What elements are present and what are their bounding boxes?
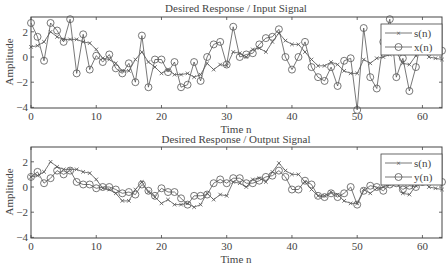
x-tick-label: 60: [417, 110, 429, 122]
legend-box: [381, 24, 442, 55]
x-marker-icon: [42, 170, 46, 174]
legend-label-x: x(n): [414, 41, 433, 54]
legend-marker-x-icon: ×: [396, 29, 401, 38]
series-line-sn: [31, 162, 442, 207]
output-signal-plot: Desired Response / Output Signal 0102030…: [3, 133, 446, 265]
legend-marker-x-icon: ×: [396, 159, 401, 168]
x-marker-icon: [362, 58, 366, 62]
x-marker-icon: [284, 39, 288, 43]
x-tick-label: 0: [28, 240, 34, 252]
x-tick-label: 30: [221, 110, 233, 122]
x-marker-icon: [192, 205, 196, 209]
legend: × s(n) y(n): [381, 154, 442, 185]
axis-ticks: 010203040506020−2−4: [16, 147, 442, 252]
x-marker-icon: [147, 60, 151, 64]
x-marker-icon: [160, 202, 164, 206]
x-tick-label: 60: [417, 240, 429, 252]
x-tick-label: 20: [156, 240, 168, 252]
x-tick-label: 40: [286, 240, 298, 252]
y-tick-label: −2: [16, 76, 28, 88]
y-tick-label: −4: [16, 231, 28, 243]
legend-label-s: s(n): [414, 27, 431, 40]
x-axis-label: Time n: [220, 253, 252, 265]
x-marker-icon: [303, 50, 307, 54]
x-tick-label: 50: [352, 240, 364, 252]
x-marker-icon: [342, 69, 346, 73]
y-tick-label: −4: [16, 101, 28, 113]
legend-box: [381, 154, 442, 185]
x-marker-icon: [342, 199, 346, 203]
legend-label-y: y(n): [414, 171, 433, 184]
input-signal-plot: Desired Response / Input Signal 01020304…: [3, 2, 446, 135]
x-marker-icon: [277, 161, 281, 165]
x-marker-icon: [166, 198, 170, 202]
x-marker-icon: [134, 58, 138, 62]
x-tick-label: 20: [156, 110, 168, 122]
x-marker-icon: [336, 63, 340, 67]
x-tick-label: 10: [91, 240, 103, 252]
x-marker-icon: [199, 203, 203, 207]
x-marker-icon: [55, 35, 59, 39]
y-tick-label: 0: [23, 51, 29, 63]
y-tick-label: 0: [23, 181, 29, 193]
plot-title: Desired Response / Input Signal: [165, 2, 307, 14]
series-line-xn: [31, 19, 442, 110]
legend-label-s: s(n): [414, 157, 431, 170]
x-marker-icon: [140, 50, 144, 54]
x-tick-label: 30: [221, 240, 233, 252]
x-tick-label: 10: [91, 110, 103, 122]
x-marker-icon: [368, 62, 372, 66]
legend: × s(n) x(n): [381, 24, 442, 55]
x-marker-icon: [94, 48, 98, 52]
x-marker-icon: [49, 160, 53, 164]
x-tick-label: 50: [352, 110, 364, 122]
plot-title: Desired Response / Output Signal: [161, 133, 310, 145]
x-marker-icon: [368, 192, 372, 196]
y-axis-label: Amplitude: [3, 168, 15, 215]
x-marker-icon: [284, 169, 288, 173]
x-marker-icon: [42, 40, 46, 44]
x-marker-icon: [94, 178, 98, 182]
x-marker-icon: [192, 75, 196, 79]
y-axis-label: Amplitude: [3, 38, 15, 85]
x-tick-label: 40: [286, 110, 298, 122]
y-tick-label: −2: [16, 206, 28, 218]
x-marker-icon: [264, 50, 268, 54]
x-marker-icon: [212, 68, 216, 72]
y-tick-label: 2: [23, 26, 29, 38]
x-tick-label: 0: [28, 110, 34, 122]
y-tick-label: 2: [23, 156, 29, 168]
figure: Desired Response / Input Signal 01020304…: [0, 0, 448, 273]
x-marker-icon: [212, 198, 216, 202]
x-marker-icon: [160, 72, 164, 76]
